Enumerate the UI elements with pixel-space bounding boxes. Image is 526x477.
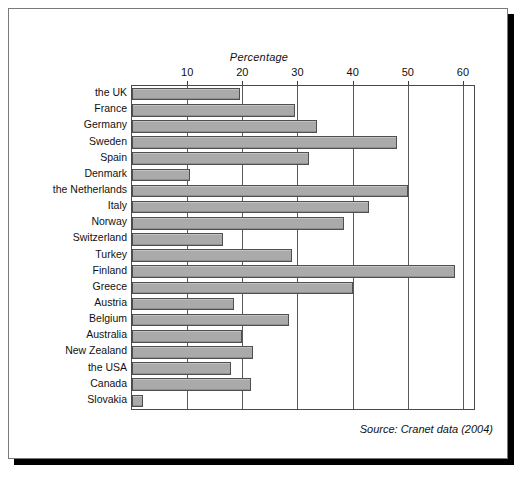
x-tick-label-40: 40: [340, 66, 366, 78]
bar-row: [132, 88, 474, 101]
bar-row: [132, 330, 474, 343]
bar: [132, 104, 295, 117]
bar-row: [132, 362, 474, 375]
tickmark-60: [463, 81, 464, 85]
x-tick-label-50: 50: [395, 66, 421, 78]
bar: [132, 346, 253, 359]
tickmark-50: [408, 81, 409, 85]
bar-row: [132, 378, 474, 391]
y-axis-label: Denmark: [9, 167, 127, 179]
bar-row: [132, 152, 474, 165]
bar: [132, 120, 317, 133]
bar-row: [132, 298, 474, 311]
bar: [132, 249, 292, 262]
bar-row: [132, 314, 474, 327]
plot-area: [131, 85, 475, 410]
tickmark-30: [297, 81, 298, 85]
bar: [132, 330, 242, 343]
bar: [132, 136, 397, 149]
bar-row: [132, 217, 474, 230]
bar: [132, 169, 190, 182]
bar-row: [132, 233, 474, 246]
bar: [132, 88, 240, 101]
tickmark-10: [187, 81, 188, 85]
bar: [132, 362, 231, 375]
y-axis-label: Spain: [9, 151, 127, 163]
y-axis-label: Canada: [9, 377, 127, 389]
bar: [132, 217, 344, 230]
bar-row: [132, 120, 474, 133]
x-tick-label-20: 20: [229, 66, 255, 78]
bar: [132, 152, 309, 165]
bar: [132, 265, 455, 278]
y-axis-label: Italy: [9, 199, 127, 211]
y-axis-label: the UK: [9, 86, 127, 98]
figure-frame: Percentage 102030405060 the UKFranceGerm…: [8, 8, 508, 459]
y-axis-label: Finland: [9, 264, 127, 276]
y-axis-category-labels: the UKFranceGermanySwedenSpainDenmarkthe…: [9, 85, 127, 410]
y-axis-label: Turkey: [9, 248, 127, 260]
source-note: Source: Cranet data (2004): [360, 423, 493, 435]
y-axis-label: the USA: [9, 361, 127, 373]
y-axis-label: Belgium: [9, 312, 127, 324]
y-axis-label: Germany: [9, 118, 127, 130]
x-axis-title: Percentage: [9, 51, 509, 63]
y-axis-label: the Netherlands: [9, 183, 127, 195]
y-axis-label: Switzerland: [9, 231, 127, 243]
bar-row: [132, 265, 474, 278]
tickmark-40: [353, 81, 354, 85]
x-tick-label-60: 60: [450, 66, 476, 78]
y-axis-label: Austria: [9, 296, 127, 308]
y-axis-label: Greece: [9, 280, 127, 292]
bar: [132, 201, 369, 214]
bar: [132, 378, 251, 391]
bar-row: [132, 249, 474, 262]
y-axis-label: Australia: [9, 328, 127, 340]
bar-row: [132, 282, 474, 295]
bar-row: [132, 185, 474, 198]
bar-row: [132, 169, 474, 182]
bar-row: [132, 201, 474, 214]
bar-row: [132, 104, 474, 117]
y-axis-label: Sweden: [9, 135, 127, 147]
bar: [132, 282, 353, 295]
y-axis-label: France: [9, 102, 127, 114]
bar: [132, 233, 223, 246]
bar-row: [132, 136, 474, 149]
x-axis-tick-labels: 102030405060: [9, 66, 509, 80]
x-tick-label-10: 10: [174, 66, 200, 78]
tickmark-20: [242, 81, 243, 85]
bar: [132, 395, 143, 408]
bar-chart: Percentage 102030405060 the UKFranceGerm…: [9, 9, 509, 460]
y-axis-label: Slovakia: [9, 393, 127, 405]
bar: [132, 314, 289, 327]
bar: [132, 185, 408, 198]
bar-row: [132, 395, 474, 408]
bar: [132, 298, 234, 311]
x-tick-label-30: 30: [284, 66, 310, 78]
bar-series: [132, 86, 474, 409]
bar-row: [132, 346, 474, 359]
y-axis-label: New Zealand: [9, 344, 127, 356]
y-axis-label: Norway: [9, 215, 127, 227]
